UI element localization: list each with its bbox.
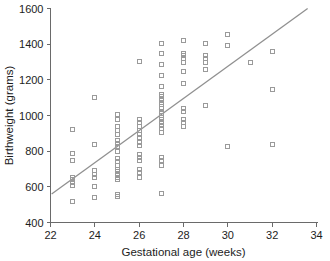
data-point-marker bbox=[270, 49, 274, 53]
data-point-marker bbox=[159, 73, 163, 77]
data-point-marker bbox=[137, 59, 141, 63]
data-point-marker bbox=[159, 192, 163, 196]
data-point-marker bbox=[159, 163, 163, 167]
x-tick-label: 30 bbox=[222, 229, 234, 241]
data-point-marker bbox=[159, 41, 163, 45]
data-point-marker bbox=[137, 158, 141, 162]
data-point-marker bbox=[115, 178, 119, 182]
regression-line bbox=[52, 9, 308, 194]
data-point-marker bbox=[182, 81, 186, 85]
y-tick-label: 1000 bbox=[19, 110, 43, 122]
data-point-marker bbox=[115, 149, 119, 153]
data-point-marker bbox=[115, 118, 119, 122]
x-axis-title: Gestational age (weeks) bbox=[121, 246, 245, 258]
data-point-marker bbox=[182, 39, 186, 43]
data-point-marker bbox=[159, 84, 163, 88]
data-point-marker bbox=[115, 138, 119, 142]
x-tick-label: 32 bbox=[266, 229, 278, 241]
x-tick-label: 34 bbox=[310, 229, 322, 241]
data-point-marker bbox=[226, 145, 230, 149]
data-point-marker bbox=[226, 43, 230, 47]
x-tick-label: 26 bbox=[133, 229, 145, 241]
data-point-marker bbox=[137, 155, 141, 159]
y-tick-label: 400 bbox=[25, 217, 43, 229]
data-point-marker bbox=[270, 88, 274, 92]
y-tick-label: 1200 bbox=[19, 74, 43, 86]
data-point-marker bbox=[159, 100, 163, 104]
data-point-marker bbox=[204, 54, 208, 58]
data-point-marker bbox=[159, 118, 163, 122]
data-point-marker bbox=[137, 118, 141, 122]
data-point-marker bbox=[137, 175, 141, 179]
x-tick-label: 28 bbox=[177, 229, 189, 241]
data-point-marker bbox=[159, 158, 163, 162]
data-point-marker bbox=[93, 143, 97, 147]
data-point-marker bbox=[270, 142, 274, 146]
data-point-marker bbox=[115, 113, 119, 117]
data-point-marker bbox=[204, 67, 208, 71]
data-point-marker bbox=[226, 32, 230, 36]
data-point-marker bbox=[115, 124, 119, 128]
data-point-marker bbox=[93, 96, 97, 100]
data-point-marker bbox=[71, 180, 75, 184]
data-point-marker bbox=[159, 63, 163, 67]
data-point-marker bbox=[71, 128, 75, 132]
y-tick-label: 600 bbox=[25, 181, 43, 193]
data-point-marker bbox=[204, 41, 208, 45]
data-point-marker bbox=[182, 70, 186, 74]
data-series-1 bbox=[71, 32, 275, 204]
data-point-marker bbox=[159, 121, 163, 125]
data-point-marker bbox=[93, 185, 97, 189]
data-point-marker bbox=[71, 152, 75, 156]
y-tick-label: 800 bbox=[25, 145, 43, 157]
data-point-marker bbox=[159, 92, 163, 96]
data-point-marker bbox=[93, 175, 97, 179]
x-tick-label: 22 bbox=[44, 229, 56, 241]
data-point-marker bbox=[159, 97, 163, 101]
data-point-marker bbox=[71, 183, 75, 187]
data-point-marker bbox=[71, 200, 75, 204]
data-point-marker bbox=[93, 196, 97, 200]
data-point-marker bbox=[182, 54, 186, 58]
y-tick-label: 1600 bbox=[19, 3, 43, 15]
data-point-marker bbox=[137, 153, 141, 157]
y-axis-title: Birthweight (grams) bbox=[3, 65, 15, 165]
data-point-marker bbox=[115, 172, 119, 176]
data-point-marker bbox=[115, 170, 119, 174]
data-point-marker bbox=[159, 51, 163, 55]
data-point-marker bbox=[159, 109, 163, 113]
x-tick-label: 24 bbox=[89, 229, 101, 241]
data-point-marker bbox=[71, 159, 75, 163]
chart-canvas: 400600800100012001400160022242628303234G… bbox=[0, 0, 330, 261]
data-point-marker bbox=[248, 60, 252, 64]
scatter-plot-figure: 400600800100012001400160022242628303234G… bbox=[0, 0, 330, 261]
y-tick-label: 1400 bbox=[19, 38, 43, 50]
data-point-marker bbox=[159, 95, 163, 99]
data-point-marker bbox=[204, 104, 208, 108]
data-point-marker bbox=[182, 51, 186, 55]
data-point-marker bbox=[115, 175, 119, 179]
data-point-marker bbox=[159, 155, 163, 159]
